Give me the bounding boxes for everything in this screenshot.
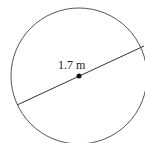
center-point [77,74,82,79]
diameter-label: 1.7 m [58,58,86,72]
circle-diagram: 1.7 m [0,0,145,143]
